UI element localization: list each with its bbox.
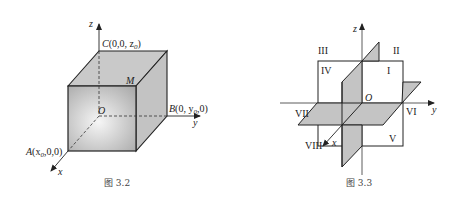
y-axis-label: y bbox=[431, 104, 437, 115]
figure-3-2: z y x O M C(0,0, z0) B(0, y0,0) A(x0,0,0… bbox=[25, 18, 208, 188]
figure-3-3: z y x O I II III IV V VI VII VIII 图 3.3 bbox=[280, 23, 437, 188]
z-axis-label: z bbox=[352, 23, 357, 34]
octant-III: III bbox=[318, 45, 328, 56]
octant-II: II bbox=[393, 45, 400, 56]
caption-fig-3-2: 图 3.2 bbox=[104, 178, 130, 188]
origin-label: O bbox=[98, 105, 105, 116]
y-axis-label: y bbox=[192, 117, 198, 128]
z-axis-label: z bbox=[88, 18, 93, 29]
x-axis-label: x bbox=[57, 166, 63, 177]
xy-plane-front bbox=[298, 103, 402, 125]
octant-IV: IV bbox=[321, 65, 332, 76]
octant-V: V bbox=[389, 133, 397, 144]
octant-VIII: VIII bbox=[305, 140, 322, 151]
octant-I: I bbox=[387, 65, 390, 76]
caption-fig-3-3: 图 3.3 bbox=[346, 178, 372, 188]
point-c-label: C(0,0, z0) bbox=[102, 38, 141, 51]
x-axis-label: x bbox=[331, 137, 337, 148]
xz-plane-upper-back bbox=[362, 42, 379, 61]
xy-plane-back-right bbox=[402, 82, 421, 103]
octant-VII: VII bbox=[295, 108, 309, 119]
point-a-label: A(x0,0,0) bbox=[25, 146, 62, 159]
point-m-label: M bbox=[125, 75, 135, 86]
origin-label: O bbox=[365, 92, 372, 103]
xz-plane-lower bbox=[342, 125, 362, 167]
octant-VI: VI bbox=[406, 106, 417, 117]
figures-canvas: z y x O M C(0,0, z0) B(0, y0,0) A(x0,0,0… bbox=[0, 0, 465, 208]
cube-front-face bbox=[68, 86, 136, 151]
point-b-label: B(0, y0,0) bbox=[169, 103, 208, 116]
